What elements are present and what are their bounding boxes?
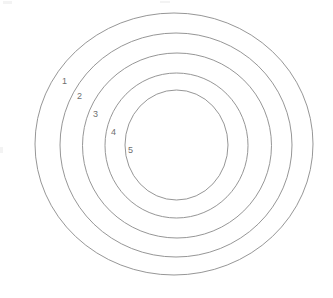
ring-circle-5: [125, 90, 228, 200]
ring-circle-4: [105, 73, 248, 218]
ring-label-2: 2: [77, 91, 82, 101]
scan-artifact-top-center: [160, 1, 170, 3]
scan-artifact-top-left: [3, 1, 12, 4]
concentric-circles-figure: 1 2 3 4 5: [0, 0, 333, 298]
ring-circle-2: [60, 33, 292, 257]
ring-label-3: 3: [93, 109, 98, 119]
ring-label-5: 5: [128, 145, 133, 155]
ring-circle-3: [83, 53, 272, 238]
ring-label-1: 1: [62, 76, 67, 86]
ring-label-4: 4: [111, 127, 116, 137]
concentric-circles-canvas: [0, 0, 333, 298]
scan-artifact-left-edge: [0, 147, 3, 153]
